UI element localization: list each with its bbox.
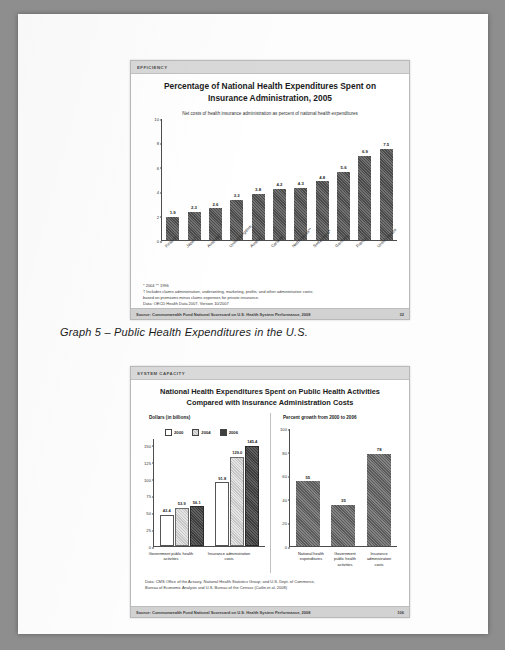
bar xyxy=(160,515,174,546)
left-bar-group: 43.453.956.191.8129.0145.4 xyxy=(154,439,265,546)
bar xyxy=(331,505,355,546)
bar-value-label: 35 xyxy=(341,498,346,503)
bar-item: 78 xyxy=(367,429,391,546)
y-tick-label: 100 xyxy=(280,427,287,432)
bar-value-label: 78 xyxy=(377,447,382,452)
x-tick-label: Insurance administration costs xyxy=(363,551,395,567)
bar-group: 1.92.32.63.33.84.24.34.85.66.97.5 xyxy=(162,119,397,240)
legend-item: 2004 xyxy=(192,429,210,436)
legend-swatch xyxy=(165,429,172,436)
x-axis-label-group: FinlandJapan*Australia*United KingdomAus… xyxy=(162,243,397,283)
slide2-notes: Data: CMS Office of the Actuary, Nationa… xyxy=(145,579,315,591)
bar-value-label: 5.6 xyxy=(341,165,347,170)
right-bar-group: 553578 xyxy=(290,429,397,546)
y-tick-label: 100 xyxy=(144,477,151,482)
bar xyxy=(245,446,259,546)
x-tick-label: Insurance administration costs xyxy=(201,551,257,562)
bar-value-label: 3.8 xyxy=(255,187,261,192)
bar xyxy=(175,508,189,546)
bar-item: 56.1 xyxy=(190,439,204,546)
bar-value-label: 53.9 xyxy=(178,501,186,506)
bar xyxy=(252,194,265,240)
y-tick-label: 6 xyxy=(157,165,159,170)
bar xyxy=(296,481,320,546)
bar-value-label: 4.2 xyxy=(276,182,282,187)
y-tick-label: 0 xyxy=(157,239,159,244)
bar-value-label: 3.3 xyxy=(234,193,240,198)
bar-value-label: 7.5 xyxy=(383,142,389,147)
bar-item: 53.9 xyxy=(175,439,189,546)
bar-item: 2.3 xyxy=(188,119,201,240)
slide-system-capacity: SYSTEM CAPACITY National Health Expendit… xyxy=(130,366,410,618)
bar xyxy=(190,506,204,546)
panel-divider xyxy=(270,413,271,573)
slide-efficiency: EFFICIENCY Percentage of National Health… xyxy=(130,60,410,320)
slide2-source: Source: Commonwealth Fund National Score… xyxy=(136,610,311,615)
y-tick-label: 60 xyxy=(282,474,287,479)
legend-item: 2000 xyxy=(165,429,183,436)
bar-group-item: 91.8129.0145.4 xyxy=(215,439,259,546)
figure-caption: Graph 5 – Public Health Expenditures in … xyxy=(60,326,308,338)
bar-item: 4.3 xyxy=(294,119,307,240)
bar-value-label: 4.3 xyxy=(298,181,304,186)
bar-item: 2.6 xyxy=(209,119,222,240)
legend-swatch xyxy=(192,429,199,436)
bar xyxy=(380,149,393,241)
y-tick-label: 4 xyxy=(157,190,159,195)
legend-label: 2000 xyxy=(174,430,183,435)
bar-value-label: 6.9 xyxy=(362,149,368,154)
slide1-source: Source: Commonwealth Fund National Score… xyxy=(136,312,311,317)
right-panel-title: Percent growth from 2000 to 2006 xyxy=(283,415,357,420)
bar-value-label: 145.4 xyxy=(247,439,257,444)
y-tick-label: 20 xyxy=(282,521,287,526)
y-tick-label: 125 xyxy=(144,460,151,465)
slide1-plot-area: 0246810 1.92.32.63.33.84.24.34.85.66.97.… xyxy=(161,119,397,241)
y-tick-label: 80 xyxy=(282,450,287,455)
y-tick-label: 2 xyxy=(157,214,159,219)
bar-value-label: 56.1 xyxy=(193,500,201,505)
legend-item: 2006 xyxy=(220,429,238,436)
y-tick-label: 75 xyxy=(146,494,151,499)
bar xyxy=(358,156,371,240)
right-x-axis xyxy=(289,546,397,547)
y-tick-label: 50 xyxy=(146,511,151,516)
bar-value-label: 2.3 xyxy=(191,205,197,210)
bar-item: 145.4 xyxy=(245,439,259,546)
bar-value-label: 4.8 xyxy=(319,175,325,180)
y-tick-label: 25 xyxy=(146,528,151,533)
bar-item: 129.0 xyxy=(230,439,244,546)
y-tick-label: 150 xyxy=(144,443,151,448)
bar xyxy=(367,454,391,546)
slide2-title-line1: National Health Expenditures Spent on Pu… xyxy=(131,387,409,397)
bar xyxy=(273,189,286,240)
bar-item: 1.9 xyxy=(166,119,179,240)
document-page: EFFICIENCY Percentage of National Health… xyxy=(18,14,488,634)
x-tick-label: Government public health activities xyxy=(329,551,361,567)
left-panel-plot-area: 0255075100125150 43.453.956.191.8129.014… xyxy=(153,439,265,547)
bar-value-label: 91.8 xyxy=(218,476,226,481)
y-tick-label: 8 xyxy=(157,141,159,146)
slide2-title-line2: Compared with Insurance Administration C… xyxy=(131,398,409,408)
bar-value-label: 55 xyxy=(305,475,310,480)
slide1-title-line2: Insurance Administration, 2005 xyxy=(131,93,409,104)
slide2-category-band: SYSTEM CAPACITY xyxy=(131,367,409,380)
slide1-title-line1: Percentage of National Health Expenditur… xyxy=(131,81,409,92)
bar-item: 5.6 xyxy=(337,119,350,240)
slide2-category-label: SYSTEM CAPACITY xyxy=(137,371,185,376)
bar-item: 55 xyxy=(296,429,320,546)
y-tick-label: 0 xyxy=(149,545,151,550)
bar-value-label: 2.6 xyxy=(212,202,218,207)
legend-label: 2006 xyxy=(229,430,238,435)
bar xyxy=(337,172,350,240)
bar-value-label: 43.4 xyxy=(163,508,171,513)
legend-swatch xyxy=(220,429,227,436)
slide1-footer: Source: Commonwealth Fund National Score… xyxy=(131,308,409,319)
left-x-axis xyxy=(153,546,265,547)
bar-item: 4.8 xyxy=(316,119,329,240)
bar-item: 6.9 xyxy=(358,119,371,240)
y-tick-label: 0 xyxy=(285,545,287,550)
slide1-category-band: EFFICIENCY xyxy=(131,61,409,74)
bar-item: 43.4 xyxy=(160,439,174,546)
slide1-subtitle: Net costs of health insurance administra… xyxy=(131,111,409,116)
bar-group-item: 43.453.956.1 xyxy=(160,439,204,546)
